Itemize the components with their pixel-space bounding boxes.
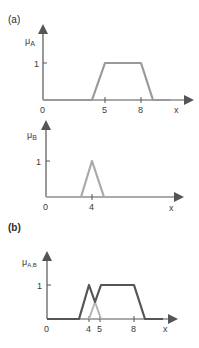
- tick-label-8: 8: [131, 324, 136, 334]
- plot-mu-ab: μA,B 1 0 4 5 8 x: [22, 251, 178, 334]
- y-axis-arrow-icon: [38, 24, 48, 34]
- fuzzy-membership-diagram: (a) μA 1 0 5 8 x μB 1 0 4 x (b): [0, 0, 199, 348]
- x-label: x: [174, 105, 179, 115]
- y-label-mu-a: μA: [25, 36, 35, 47]
- x-axis-arrow-icon: [184, 95, 194, 105]
- x-axis-arrow-icon: [168, 314, 178, 324]
- origin-label: 0: [40, 105, 45, 115]
- one-label: 1: [36, 157, 41, 167]
- panel-b-label: (b): [8, 222, 21, 233]
- tick-label-8: 8: [138, 105, 143, 115]
- tick-label-5: 5: [102, 105, 107, 115]
- y-axis-arrow-icon: [41, 120, 51, 130]
- origin-label: 0: [43, 202, 48, 212]
- x-axis-arrow-icon: [174, 192, 184, 202]
- tick-label-4: 4: [86, 324, 91, 334]
- panel-a-label: (a): [8, 14, 20, 25]
- plot-mu-b: μB 1 0 4 x: [27, 120, 184, 213]
- one-label: 1: [34, 59, 39, 69]
- membership-curve-a: [43, 63, 170, 100]
- x-label: x: [169, 203, 174, 213]
- x-label: x: [163, 324, 168, 334]
- membership-curve-b: [46, 161, 104, 197]
- y-axis-arrow-icon: [42, 251, 52, 261]
- y-label-mu-ab: μA,B: [22, 257, 37, 268]
- membership-curve-union: [47, 285, 163, 319]
- origin-label: 0: [44, 324, 49, 334]
- plot-mu-a: μA 1 0 5 8 x: [25, 24, 194, 115]
- tick-label-4: 4: [89, 202, 94, 212]
- hidden-curve-segment: [89, 302, 101, 319]
- one-label: 1: [37, 281, 42, 291]
- tick-label-5: 5: [97, 324, 102, 334]
- y-label-mu-b: μB: [27, 130, 37, 141]
